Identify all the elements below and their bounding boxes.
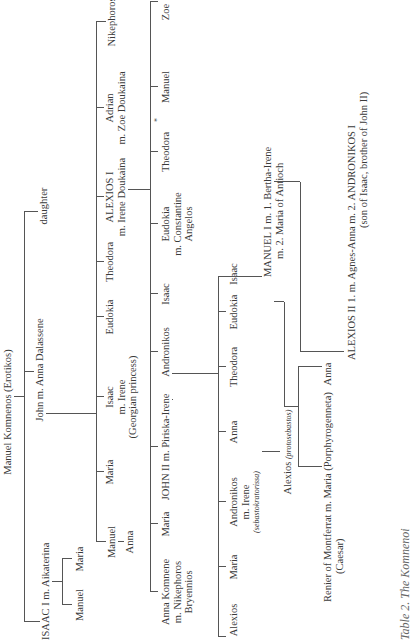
isaac-spouse: m. Irene — [116, 356, 128, 439]
node-andronikos-john-ii-son: Andronikos m. Irene (sebastokratorissa) — [228, 471, 263, 533]
connector — [24, 371, 34, 372]
connector — [298, 366, 322, 367]
node-root: Manuel Komnenos (Erotikos) — [2, 349, 14, 474]
connector — [274, 181, 300, 182]
node-anna-john-ii-daughter: Anna — [228, 421, 240, 444]
connector — [150, 591, 158, 592]
connector — [274, 301, 284, 302]
node-alexios-i: ALEXIOS I m. Irene Doukaina — [104, 158, 127, 236]
renier-title: (Caesar) — [334, 392, 346, 602]
connector — [24, 211, 38, 212]
node-theodora-john-ii-daughter: Theodora — [228, 347, 240, 387]
node-isaac-alexios-son: Isaac — [160, 283, 172, 305]
node-isaac-sebastokrator: Isaac m. Irene (Georgian princess) — [104, 356, 139, 439]
connector — [52, 581, 62, 582]
node-alexios-protosebastos: Alexios (protosebastos) — [282, 410, 295, 495]
node-theodora-alexios-daughter: Theodora — [160, 132, 172, 172]
connector — [150, 351, 158, 352]
eudokia-name: Eudokia — [160, 192, 172, 256]
asterisk-mark: * — [152, 118, 164, 122]
connector — [150, 293, 158, 294]
connector — [62, 604, 72, 605]
node-anna-manuel-daughter: Anna — [124, 531, 136, 554]
node-eudokia-alexios-daughter: Eudokia m. Constantine Angelos — [160, 192, 195, 256]
connector — [128, 189, 150, 190]
connector — [300, 351, 344, 352]
connector — [96, 107, 104, 108]
connector — [150, 151, 158, 152]
connector — [218, 276, 262, 277]
node-john-ii: JOHN II m. Piriska-Irene — [160, 394, 172, 501]
connector — [218, 501, 226, 502]
node-maria-john-daughter: Maria — [104, 459, 116, 484]
node-john: John m. Anna Dalassene — [34, 318, 46, 421]
eudokia-spouse: m. Constantine — [172, 192, 184, 256]
alexios-i-spouse: m. Irene Doukaina — [116, 158, 128, 236]
family-tree: Manuel Komnenos (Erotikos) ISAAC I m. Ai… — [0, 0, 416, 642]
alexios-protosebastos-name: Alexios — [282, 462, 293, 495]
adrian-spouse: m. Zoe Doukaina — [116, 71, 128, 144]
connector — [14, 396, 24, 397]
node-daughter: daughter — [38, 188, 50, 225]
node-nikephoros: Nikephoros — [106, 0, 118, 47]
andronikos-name: Andronikos — [228, 471, 240, 533]
connector — [96, 261, 104, 262]
isaac-name: Isaac — [104, 356, 116, 439]
connector — [218, 366, 226, 367]
connector — [298, 466, 322, 467]
connector — [96, 316, 104, 317]
node-renier-maria: Renier of Montferrat m. Maria (Porphyrog… — [322, 392, 345, 602]
alexios-ii-name: ALEXIOS II 1. m. Agnes-Anna m. 2. ANDRON… — [346, 92, 358, 360]
node-eudokia-john-ii-daughter: Eudokia — [228, 295, 240, 330]
connector — [298, 367, 299, 467]
node-maria-john-ii-daughter: Maria — [228, 554, 240, 579]
node-manuel-i: MANUEL I m. 1. Bertha-Irene m. 2. Maria … — [262, 147, 285, 277]
connector — [96, 21, 106, 22]
connector — [218, 311, 226, 312]
node-maria-isaac-daughter: Maria — [74, 546, 86, 571]
isaac-spouse-note: (Georgian princess) — [127, 356, 139, 439]
connector — [96, 22, 97, 542]
connector — [150, 1, 158, 2]
connector — [262, 451, 280, 452]
connector — [24, 621, 40, 622]
table-caption: Table 2. The Komnenoi — [398, 528, 413, 640]
connector — [284, 406, 298, 407]
node-manuel-isaac-son: Manuel — [74, 589, 86, 621]
connector — [150, 523, 158, 524]
connector — [172, 373, 218, 374]
node-isaac-i: ISAAC I m. Aikaterina — [40, 543, 52, 640]
node-manuel-alexios-son: Manuel — [160, 71, 172, 103]
node-zoe: Zoe — [160, 4, 172, 20]
connector — [62, 559, 63, 605]
node-andronikos-alexios-son: Andronikos — [160, 327, 172, 377]
connector — [96, 196, 104, 197]
connector — [218, 277, 219, 637]
andronikos-spouse-title: (sebastokratorissa) — [251, 471, 263, 533]
connector — [218, 431, 226, 432]
node-manuel-john-son: Manuel — [106, 526, 118, 558]
andronikos-spouse: m. Irene — [240, 471, 252, 533]
anna-komnene-spouse-2: Bryennios — [183, 559, 195, 625]
node-eudokia: Eudokia — [104, 300, 116, 335]
node-alexios-co-emperor: Alexios — [228, 604, 240, 637]
connector — [150, 2, 151, 592]
connector — [150, 223, 158, 224]
node-maria-alexios-daughter: Maria — [160, 511, 172, 536]
node-anna-komnene: Anna Komnene m. Nikephoros Bryennios — [160, 559, 195, 625]
node-alexios-ii: ALEXIOS II 1. m. Agnes-Anna m. 2. ANDRON… — [346, 92, 369, 360]
connector — [96, 396, 104, 397]
node-isaac-john-ii-son: Isaac — [228, 263, 240, 285]
alexios-protosebastos-title: (protosebastos) — [284, 410, 293, 459]
node-adrian: Adrian m. Zoe Doukaina — [104, 71, 127, 144]
connector — [62, 558, 72, 559]
connector — [96, 541, 106, 542]
connector — [96, 471, 104, 472]
connector — [172, 399, 173, 400]
anna-komnene-name: Anna Komnene — [160, 559, 172, 625]
renier-maria-name: Renier of Montferrat m. Maria (Porphyrog… — [322, 392, 334, 602]
alexios-i-name: ALEXIOS I — [104, 158, 116, 236]
adrian-name: Adrian — [104, 71, 116, 144]
node-anna-manuel-i-daughter: Anna — [322, 363, 334, 386]
connector — [284, 302, 285, 407]
